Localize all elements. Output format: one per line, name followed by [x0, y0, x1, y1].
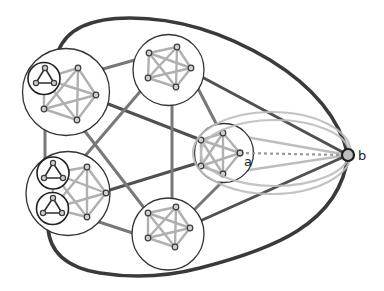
- node: [74, 117, 80, 123]
- node: [145, 235, 151, 241]
- node: [41, 106, 47, 112]
- node: [75, 65, 81, 71]
- node-b: [342, 149, 354, 161]
- node: [84, 214, 90, 220]
- node: [145, 210, 151, 216]
- node: [84, 164, 90, 170]
- node: [41, 175, 46, 180]
- graph-diagram: a b: [0, 0, 384, 291]
- node: [188, 65, 194, 71]
- node: [33, 80, 38, 85]
- node: [50, 160, 55, 165]
- node-a: [237, 150, 243, 156]
- cluster-edge: [176, 47, 177, 87]
- node: [174, 44, 180, 50]
- node: [40, 210, 45, 215]
- cluster-bottom: [132, 198, 204, 270]
- node: [93, 92, 99, 98]
- cluster-edge: [148, 53, 149, 78]
- label-a: a: [244, 154, 252, 169]
- node: [173, 84, 179, 90]
- node: [60, 175, 65, 180]
- node: [146, 50, 152, 56]
- node: [187, 225, 193, 231]
- cluster-bottom-left: [26, 152, 110, 236]
- node: [172, 244, 178, 250]
- node: [59, 210, 64, 215]
- node: [42, 65, 47, 70]
- node: [103, 190, 109, 196]
- cluster-top-left: [23, 49, 110, 136]
- cluster-edge: [175, 207, 176, 247]
- node: [50, 195, 55, 200]
- cluster-top: [133, 35, 204, 106]
- label-b: b: [358, 148, 366, 163]
- node: [173, 204, 179, 210]
- node: [51, 80, 56, 85]
- node: [145, 75, 151, 81]
- cluster-edge: [77, 68, 78, 120]
